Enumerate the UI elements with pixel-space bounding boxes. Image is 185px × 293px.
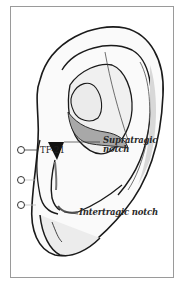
point-marker-2[interactable] — [17, 176, 25, 184]
point-marker-1[interactable] — [17, 146, 25, 154]
cymba-conchae — [71, 83, 102, 121]
point-label-1: TF-21 — [40, 145, 65, 155]
intertragic-notch-label: Intertragic notch — [79, 208, 158, 217]
point-marker-3[interactable] — [17, 201, 25, 209]
supratragic-line-2: notch — [103, 145, 157, 154]
supratragic-notch-label: Supratragic notch — [103, 136, 157, 154]
